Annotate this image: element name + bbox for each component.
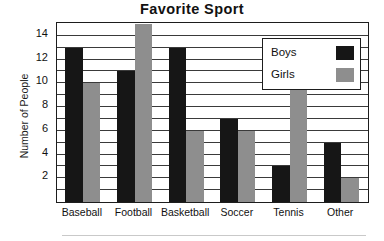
page-edge-hairline [62, 235, 366, 236]
bar-basketball-boys [169, 48, 187, 202]
chart-legend: Boys Girls [262, 38, 361, 90]
bar-baseball-girls [83, 83, 101, 202]
legend-item-boys: Boys [271, 42, 354, 64]
bar-tennis-boys [272, 166, 290, 202]
x-axis-tick-labels: BaseballFootballBasketballSoccerTennisOt… [56, 206, 369, 224]
bar-basketball-girls [186, 131, 204, 202]
bar-football-girls [135, 24, 153, 202]
y-axis-tick-label: 10 [22, 75, 48, 86]
legend-swatch-girls [336, 68, 354, 82]
x-axis-tick-label-other: Other [301, 206, 379, 218]
bar-soccer-girls [238, 131, 256, 202]
bar-baseball-boys [65, 48, 83, 202]
y-axis-tick-labels: 2468101214 [18, 22, 48, 203]
y-axis-tick-label: 12 [22, 52, 48, 63]
chart-title: Favorite Sport [0, 1, 384, 17]
y-axis-tick-label: 8 [22, 99, 48, 110]
legend-item-girls: Girls [271, 64, 354, 86]
y-axis-tick-label: 14 [22, 28, 48, 39]
legend-label-boys: Boys [271, 47, 297, 59]
bar-football-boys [117, 71, 135, 202]
y-axis-tick-label: 4 [22, 147, 48, 158]
bar-other-girls [341, 178, 359, 202]
bar-other-boys [324, 143, 342, 202]
bar-soccer-boys [220, 119, 238, 202]
chart-container: Favorite Sport Number of People 24681012… [0, 0, 384, 241]
bar-tennis-girls [290, 71, 308, 202]
legend-label-girls: Girls [271, 69, 295, 81]
legend-swatch-boys [336, 46, 354, 60]
y-axis-tick-label: 2 [22, 170, 48, 181]
y-axis-tick-label: 6 [22, 123, 48, 134]
